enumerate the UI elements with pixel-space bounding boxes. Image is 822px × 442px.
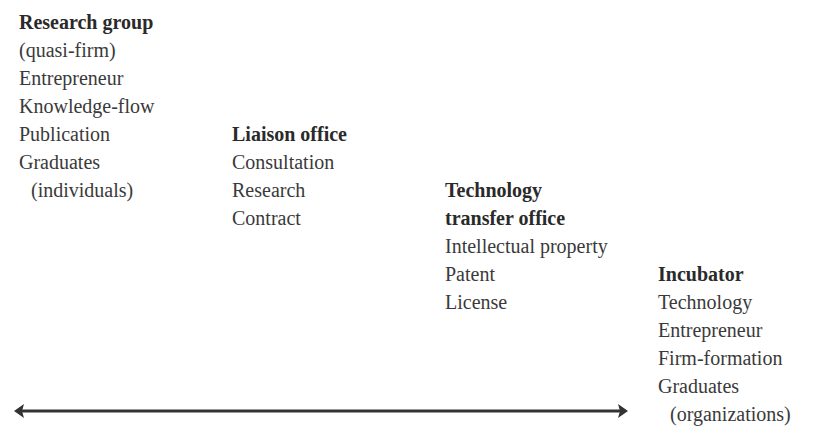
list-item: Firm-formation [658, 344, 791, 372]
list-item: Knowledge-flow [19, 92, 155, 120]
list-item: (quasi-firm) [19, 36, 155, 64]
incubator-column: Incubator Technology Entrepreneur Firm-f… [658, 260, 791, 428]
list-item: Graduates [658, 372, 791, 400]
list-item: (organizations) [658, 400, 791, 428]
list-item: Entrepreneur [658, 316, 791, 344]
double-headed-arrow-icon [14, 404, 628, 418]
technology-transfer-office-column: Technology transfer office Intellectual … [445, 176, 608, 316]
list-item: (individuals) [19, 176, 155, 204]
column-title: Technology [445, 176, 608, 204]
list-item: Intellectual property [445, 232, 608, 260]
list-item: Publication [19, 120, 155, 148]
column-title: Incubator [658, 260, 791, 288]
liaison-office-column: Liaison office Consultation Research Con… [232, 120, 347, 232]
research-group-column: Research group (quasi-firm) Entrepreneur… [19, 8, 155, 204]
list-item: Graduates [19, 148, 155, 176]
list-item: Contract [232, 204, 347, 232]
list-item: Technology [658, 288, 791, 316]
list-item: Research [232, 176, 347, 204]
list-item: Consultation [232, 148, 347, 176]
list-item: Patent [445, 260, 608, 288]
list-item: Entrepreneur [19, 64, 155, 92]
list-item: License [445, 288, 608, 316]
column-title: Research group [19, 8, 155, 36]
column-title: Liaison office [232, 120, 347, 148]
column-title: transfer office [445, 204, 608, 232]
